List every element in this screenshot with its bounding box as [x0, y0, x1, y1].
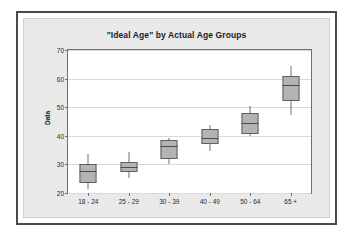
plot-area: 203040506070 18 - 2425 - 2930 - 3940 - 4…: [67, 49, 312, 194]
gridline: [68, 79, 311, 80]
gridline: [68, 164, 311, 165]
y-tick-mark: [65, 79, 68, 80]
x-tick-mark: [291, 193, 292, 196]
x-tick-label: 25 - 29: [119, 198, 139, 205]
y-tick-label: 50: [57, 104, 64, 111]
y-tick-mark: [65, 136, 68, 137]
y-tick-label: 70: [57, 47, 64, 54]
y-tick-mark: [65, 193, 68, 194]
page-root: "Ideal Age" by Actual Age Groups Data 20…: [0, 0, 353, 236]
y-tick-mark: [65, 107, 68, 108]
median-line: [120, 167, 137, 168]
x-tick-mark: [129, 193, 130, 196]
median-line: [282, 85, 299, 86]
box-rect: [80, 164, 97, 182]
x-tick-label: 50 - 64: [240, 198, 260, 205]
box-rect: [282, 76, 299, 101]
y-tick-mark: [65, 164, 68, 165]
y-axis-title: Data: [44, 111, 51, 125]
median-line: [242, 123, 259, 124]
median-line: [161, 146, 178, 147]
y-tick-label: 30: [57, 161, 64, 168]
y-tick-label: 40: [57, 132, 64, 139]
x-tick-label: 18 - 24: [78, 198, 98, 205]
y-tick-label: 20: [57, 190, 64, 197]
gridline: [68, 193, 311, 194]
chart-canvas: "Ideal Age" by Actual Age Groups Data 20…: [23, 18, 330, 218]
gridline: [68, 136, 311, 137]
x-tick-mark: [88, 193, 89, 196]
chart-title: "Ideal Age" by Actual Age Groups: [24, 30, 329, 40]
gridline: [68, 50, 311, 51]
median-line: [201, 138, 218, 139]
x-tick-label: 30 - 39: [159, 198, 179, 205]
x-tick-mark: [169, 193, 170, 196]
y-tick-mark: [65, 50, 68, 51]
x-tick-mark: [250, 193, 251, 196]
x-tick-label: 40 - 49: [200, 198, 220, 205]
y-tick-label: 60: [57, 75, 64, 82]
box-rect: [201, 129, 218, 144]
gridline: [68, 107, 311, 108]
box-rect: [161, 140, 178, 159]
x-tick-mark: [210, 193, 211, 196]
figure-frame: "Ideal Age" by Actual Age Groups Data 20…: [16, 11, 337, 225]
median-line: [80, 171, 97, 172]
x-tick-label: 65 +: [284, 198, 297, 205]
